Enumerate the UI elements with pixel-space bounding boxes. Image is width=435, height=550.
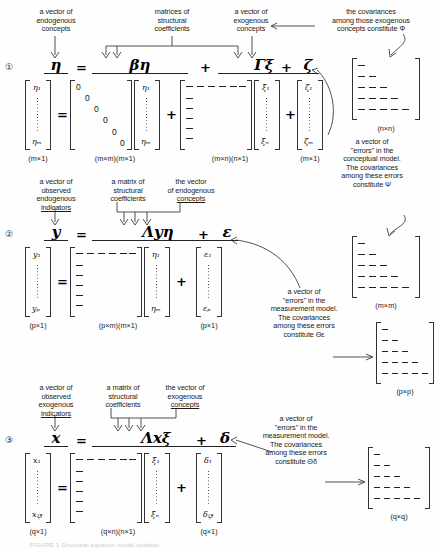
label-line: concepts [14, 25, 98, 34]
dash-element [402, 362, 408, 363]
matrix-xi-vector: ξ₁ ξₙ [254, 80, 280, 150]
bracket-right [46, 247, 51, 317]
dash-element [374, 465, 380, 466]
dim-label: (p×1) [11, 322, 65, 330]
dash-element [382, 373, 388, 374]
dash-element [76, 253, 83, 254]
dash-element [380, 276, 387, 277]
operator-equals-matrix-3: = [57, 481, 68, 494]
dash-element [76, 491, 83, 492]
bracket-right [217, 247, 222, 317]
label-phi-covariances: the covariances among those exogenous co… [310, 8, 432, 34]
vertical-dots [37, 471, 38, 505]
operator-plus-1: + [200, 61, 211, 74]
dash-element [186, 118, 193, 119]
matrix-epsilon-vector: ε₁ εₚ [196, 247, 222, 317]
dash-element [76, 511, 83, 512]
matrix-eta-vector-2: η₁ ηₘ [134, 80, 160, 150]
dash-element [374, 476, 380, 477]
label-endogenous-concepts: a vector of endogenous concepts [14, 8, 98, 34]
vertical-dots [309, 98, 310, 132]
bracket-right [155, 80, 160, 150]
dim-label: (q×q) [368, 513, 430, 521]
zero-element: 0 [103, 116, 108, 125]
vertical-dots [156, 471, 157, 505]
dash-element [76, 285, 83, 286]
matrix-element: ζₘ [304, 138, 313, 146]
matrix-element: ξₙ [151, 511, 159, 519]
dash-element [404, 498, 410, 499]
label-theta-eps-covariances: a vector of "errors" in the measurement … [252, 288, 356, 340]
dash-element [394, 476, 400, 477]
matrix-element: ξₙ [261, 138, 269, 146]
dim-label: (n×n) [355, 125, 417, 133]
dash-element [358, 87, 365, 88]
dash-element [358, 243, 365, 244]
dash-element [402, 109, 409, 110]
matrix-theta-delta [368, 447, 430, 509]
dash-element [369, 98, 376, 99]
label-observed-exogenous-indicators: a vector of observed exogenous indicator… [16, 384, 96, 418]
dash-element [76, 305, 83, 306]
term-y: y [44, 225, 68, 241]
dash-element [404, 487, 410, 488]
bracket-right [217, 453, 222, 523]
dash-element [391, 109, 398, 110]
matrix-beta: 0 0 0 0 0 0 [70, 80, 132, 150]
zero-element: 0 [120, 139, 125, 148]
bracket-right [415, 58, 420, 120]
label-line: indicators [16, 410, 96, 419]
dash-element [120, 253, 127, 254]
operator-plus-3: + [198, 228, 209, 241]
matrix-element: ηₘ [32, 138, 42, 146]
dash-element [412, 373, 418, 374]
bracket-right [275, 80, 280, 150]
matrix-y-vector: y₁ yₚ [25, 247, 51, 317]
dash-element [369, 76, 376, 77]
dash-element [186, 138, 193, 139]
equation-number-3: ③ [5, 436, 13, 445]
vertical-dots [146, 98, 147, 132]
dash-element [384, 476, 390, 477]
bracket-right [425, 447, 430, 509]
bracket-right [137, 453, 142, 523]
vertical-dots [208, 471, 209, 505]
zero-element: 0 [94, 105, 99, 114]
label-structural-coefficients: matrices of structural coefficients [131, 8, 213, 34]
label-line: constitute Ψ [318, 181, 426, 190]
dash-element [382, 351, 388, 352]
dash-element [87, 459, 94, 460]
dim-label: (q×1) [182, 528, 236, 536]
dim-label: (p×m)(m×1) [66, 322, 170, 330]
bracket-right [137, 247, 142, 317]
dim-label: (p×1) [182, 322, 236, 330]
dash-element [380, 109, 387, 110]
matrix-element: ε₁ [204, 251, 212, 259]
dim-label: (m×m)(m×1) [66, 155, 164, 163]
matrix-eta-vector: η₁ ηₘ [25, 80, 51, 150]
dash-element [380, 87, 387, 88]
dash-element [129, 253, 136, 254]
label-line: concepts [215, 25, 287, 34]
dash-element [380, 265, 387, 266]
dash-element [208, 86, 215, 87]
dash-element [414, 498, 420, 499]
operator-plus-matrix-4: + [176, 481, 187, 494]
dim-label: (m×m) [355, 302, 417, 310]
label-line: indicators [16, 204, 96, 213]
equation-number-2: ② [5, 230, 13, 239]
dash-element [380, 98, 387, 99]
dash-element [380, 287, 387, 288]
bracket-right [165, 453, 170, 523]
dash-element [392, 373, 398, 374]
operator-plus-2: + [281, 61, 292, 74]
label-line: concepts [146, 401, 224, 410]
dim-label: (p×p) [375, 388, 435, 396]
dash-element [129, 459, 136, 460]
dash-element [219, 86, 226, 87]
operator-plus-matrix-1: + [166, 108, 177, 121]
dash-element [422, 373, 428, 374]
dash-element [384, 498, 390, 499]
dim-label: (m×n)(n×1) [180, 155, 280, 163]
matrix-theta-epsilon [376, 322, 434, 384]
